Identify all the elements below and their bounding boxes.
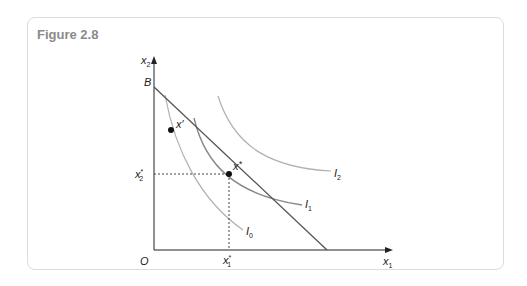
indifference-curve-i1 [194, 118, 302, 205]
budget-label: B [144, 76, 151, 88]
indifference-diagram: x2 x1 O B x′ x* x*2 x*1 I0 I1 I2 [0, 0, 527, 286]
x-star-label: x* [232, 159, 243, 172]
y-axis-label: x2 [140, 54, 151, 68]
x1-star-label: x*1 [222, 254, 232, 268]
x-axis-label: x1 [382, 255, 393, 269]
origin-label: O [140, 255, 149, 267]
point-x-star [226, 171, 232, 177]
x2-star-label: x*2 [134, 168, 144, 182]
i0-label: I0 [246, 225, 253, 239]
indifference-curve-i0 [165, 95, 243, 230]
y-axis-arrow-icon [151, 56, 157, 64]
i1-label: I1 [305, 198, 312, 212]
i2-label: I2 [334, 167, 341, 181]
x-prime-label: x′ [175, 118, 185, 130]
x-axis-arrow-icon [385, 247, 393, 253]
point-x-prime [168, 127, 174, 133]
